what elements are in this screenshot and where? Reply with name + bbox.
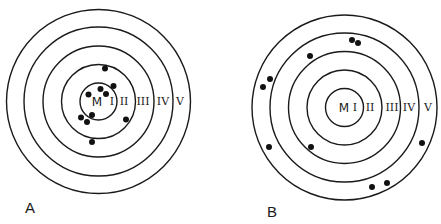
dot — [89, 112, 95, 118]
zone-label-ii: II — [366, 101, 375, 114]
dot — [266, 144, 272, 150]
zone-label-m: M — [339, 101, 349, 115]
zone-label-iii: III — [136, 95, 149, 108]
dot — [84, 119, 90, 125]
zone-label-v: V — [423, 101, 433, 114]
dot — [111, 83, 117, 89]
dot — [307, 53, 313, 59]
panel-a: M I II III IV V A — [7, 10, 191, 217]
zone-label-iv: IV — [157, 95, 170, 108]
dot — [355, 40, 361, 46]
dot — [123, 117, 129, 123]
dot — [86, 92, 92, 98]
panel-b: M I II III IV V B — [252, 15, 437, 220]
zone-label-iii: III — [385, 101, 398, 114]
panel-label-a: A — [25, 199, 35, 216]
figure: M I II III IV V A M I II III IV V — [0, 0, 441, 224]
dot — [419, 140, 425, 146]
dot — [78, 115, 84, 121]
dot — [349, 37, 355, 43]
zone-label-m: M — [92, 95, 102, 109]
zone-label-i: I — [110, 95, 114, 108]
dot — [89, 139, 95, 145]
zone-label-ii: II — [120, 95, 129, 108]
dot — [369, 184, 375, 190]
dot — [260, 84, 266, 90]
zone-label-i: I — [353, 101, 357, 114]
zone-label-iv: IV — [403, 101, 416, 114]
panel-label-b: B — [267, 203, 277, 220]
zone-label-v: V — [175, 95, 185, 108]
dot — [308, 144, 314, 150]
dot — [98, 86, 104, 92]
dot — [384, 180, 390, 186]
dot — [102, 66, 108, 72]
dot — [267, 76, 273, 82]
dot — [103, 91, 109, 97]
